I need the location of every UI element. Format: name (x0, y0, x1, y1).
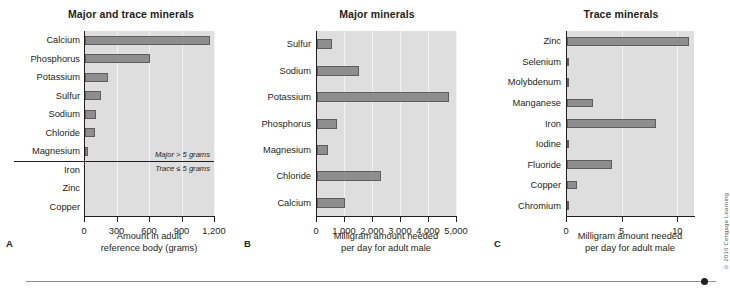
y-axis-label-iron: Iron (545, 119, 561, 129)
chart-b-x-axis-title: Milligram amount needed per day for adul… (256, 231, 516, 254)
y-axis-label-fluoride: Fluoride (527, 160, 561, 170)
y-axis-label-chloride: Chloride (276, 171, 311, 181)
y-axis-label-molybdenum: Molybdenum (508, 77, 561, 87)
bar-sodium (317, 66, 359, 76)
y-axis-label-chromium: Chromium (518, 201, 561, 211)
bar-fluoride (567, 160, 612, 169)
gridline (677, 31, 678, 216)
y-axis-label-phosphorus: Phosphorus (261, 119, 311, 129)
chart-c-x-axis-title: Milligram amount needed per day for adul… (506, 231, 730, 254)
copyright-credit: © 2016 Cengage Learning (723, 193, 729, 270)
y-axis-label-calcium: Calcium (46, 35, 80, 45)
x-axis-tick (84, 217, 85, 222)
chart-a-annotation-trace: Trace ≤ 5 grams (94, 164, 210, 173)
chart-a-x-axis-title: Amount in adult reference body (grams) (24, 231, 274, 254)
bar-chloride (317, 171, 381, 181)
bar-zinc (567, 37, 689, 46)
bar-sodium (85, 110, 96, 119)
x-axis-tick (117, 217, 118, 222)
chart-a-x-axis-title-line2: reference body (grams) (24, 243, 274, 255)
x-axis-tick (566, 217, 567, 222)
minerals-figure: Major and trace minerals CalciumPhosphor… (0, 0, 730, 298)
bar-calcium (317, 198, 345, 208)
y-axis-label-selenium: Selenium (522, 57, 561, 67)
bar-copper (567, 181, 577, 190)
x-axis-tick (428, 217, 429, 222)
gridline (428, 31, 429, 216)
chart-panel-b: Major minerals SulfurSodiumPotassiumPhos… (240, 0, 490, 298)
x-axis-tick (344, 217, 345, 222)
chart-c-x-axis-title-line2: per day for adult male (506, 243, 730, 255)
bar-potassium (85, 73, 108, 82)
bar-magnesium (85, 147, 88, 156)
x-axis-tick (622, 217, 623, 222)
gridline (182, 31, 183, 216)
y-axis-label-calcium: Calcium (277, 198, 311, 208)
y-axis-label-chloride: Chloride (45, 128, 80, 138)
x-axis-tick (214, 217, 215, 222)
bar-selenium (567, 58, 569, 67)
y-axis-label-copper: Copper (531, 180, 562, 190)
chart-b-x-axis-title-line1: Milligram amount needed (256, 231, 516, 243)
gridline (456, 31, 457, 216)
bar-manganese (567, 99, 593, 108)
x-axis-tick (677, 217, 678, 222)
y-axis-label-copper: Copper (50, 202, 81, 212)
chart-panel-c: Trace minerals ZincSeleniumMolybdenumMan… (490, 0, 730, 298)
bar-iodine (567, 140, 569, 149)
bar-chromium (567, 201, 569, 210)
y-axis-label-sodium: Sodium (48, 109, 80, 119)
y-axis-label-sodium: Sodium (279, 66, 311, 76)
bar-phosphorus (317, 119, 337, 129)
bar-molybdenum (567, 78, 569, 87)
gridline (214, 31, 215, 216)
y-axis-label-phosphorus: Phosphorus (30, 54, 80, 64)
footer-dot-icon (701, 278, 708, 285)
chart-a-x-axis-title-line1: Amount in adult (24, 231, 274, 243)
bar-potassium (317, 92, 449, 102)
gridline (344, 31, 345, 216)
y-axis-label-iron: Iron (64, 165, 80, 175)
x-axis-tick (182, 217, 183, 222)
bar-magnesium (317, 145, 328, 155)
bar-iron (567, 119, 656, 128)
y-axis-label-zinc: Zinc (62, 183, 80, 193)
y-axis-label-potassium: Potassium (37, 72, 80, 82)
y-axis-label-manganese: Manganese (512, 98, 561, 108)
chart-c-x-axis-line (566, 216, 695, 217)
chart-a-panel-letter: A (6, 238, 13, 249)
chart-b-panel-letter: B (244, 238, 251, 249)
x-axis-tick (316, 217, 317, 222)
bar-sulfur (317, 39, 332, 49)
gridline (372, 31, 373, 216)
gridline (400, 31, 401, 216)
chart-c-x-axis-title-line1: Milligram amount needed (506, 231, 730, 243)
chart-a-major-trace-divider (14, 161, 214, 163)
x-axis-tick (400, 217, 401, 222)
footer-rule (26, 281, 716, 282)
chart-b-plot-area (316, 31, 456, 216)
bar-chloride (85, 128, 95, 137)
y-axis-label-iodine: Iodine (536, 139, 561, 149)
y-axis-label-magnesium: Magnesium (263, 145, 311, 155)
bar-calcium (85, 36, 210, 45)
x-axis-tick (149, 217, 150, 222)
chart-c-panel-letter: C (494, 238, 501, 249)
chart-a-annotation-major: Major > 5 grams (94, 150, 210, 159)
y-axis-label-potassium: Potassium (268, 92, 311, 102)
y-axis-label-zinc: Zinc (543, 36, 561, 46)
x-axis-tick (456, 217, 457, 222)
bar-sulfur (85, 91, 101, 100)
chart-b-x-axis-title-line2: per day for adult male (256, 243, 516, 255)
y-axis-label-magnesium: Magnesium (32, 146, 80, 156)
chart-b-x-axis-line (316, 216, 457, 217)
chart-panel-a: Major and trace minerals CalciumPhosphor… (0, 0, 240, 298)
y-axis-label-sulfur: Sulfur (56, 91, 80, 101)
x-axis-tick (372, 217, 373, 222)
y-axis-label-sulfur: Sulfur (287, 39, 311, 49)
bar-phosphorus (85, 54, 150, 63)
